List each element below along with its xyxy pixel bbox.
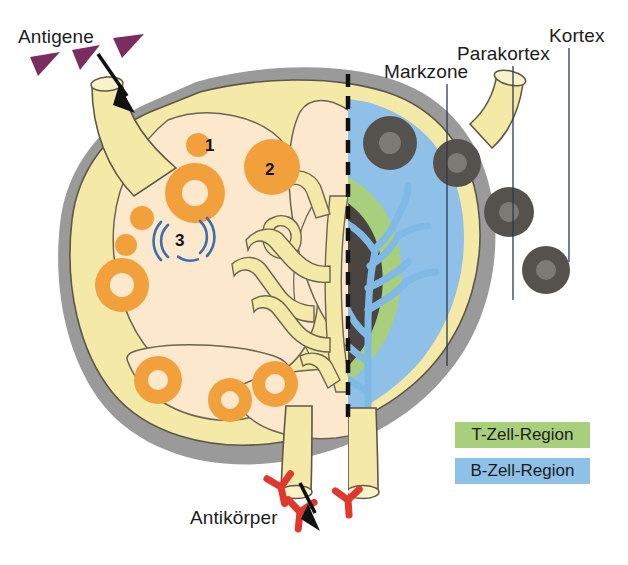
label-markzone: Markzone (384, 62, 468, 81)
marker-1: 1 (205, 136, 214, 156)
marker-2: 2 (265, 160, 274, 180)
legend-item-b-cell: B-Zell-Region (455, 458, 590, 484)
label-antikoerper: Antikörper (190, 508, 278, 527)
legend-label-b-cell: B-Zell-Region (455, 458, 590, 484)
hilar-vessel-top-right (470, 67, 527, 148)
legend-item-t-cell: T-Zell-Region (455, 422, 590, 448)
label-kortex: Kortex (549, 26, 605, 45)
label-parakortex: Parakortex (457, 44, 550, 63)
label-antigene: Antigene (18, 27, 94, 46)
efferent-vessel-secondary (347, 408, 379, 499)
legend-label-t-cell: T-Zell-Region (455, 422, 590, 448)
marker-3: 3 (175, 231, 184, 251)
figure-canvas: Antigene Markzone Parakortex Kortex Anti… (0, 0, 628, 565)
